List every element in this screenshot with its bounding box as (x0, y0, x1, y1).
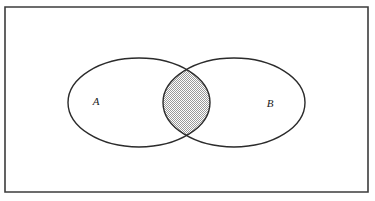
set-a-label: A (92, 95, 100, 107)
venn-diagram-figure: A B (0, 0, 375, 201)
set-b-label: B (267, 97, 274, 109)
venn-diagram-canvas: A B (0, 0, 375, 201)
